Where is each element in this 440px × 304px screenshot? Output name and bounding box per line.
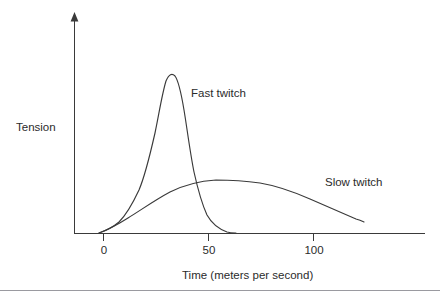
- y-axis: [71, 12, 79, 234]
- chart-canvas: [0, 0, 440, 304]
- x-tick-label-100: 100: [300, 245, 328, 257]
- chart-figure: Tension 0 50 100 Time (meters per second…: [0, 0, 440, 304]
- y-axis-title: Tension: [16, 122, 56, 134]
- series-label-slow-twitch: Slow twitch: [325, 177, 383, 189]
- x-tick-label-50: 50: [197, 245, 221, 257]
- x-tick-label-0: 0: [93, 245, 115, 257]
- series-label-fast-twitch: Fast twitch: [191, 88, 246, 100]
- footer-divider: [0, 290, 440, 291]
- x-axis-title: Time (meters per second): [182, 270, 313, 282]
- x-axis: [75, 234, 426, 241]
- y-axis-arrow-icon: [71, 12, 79, 22]
